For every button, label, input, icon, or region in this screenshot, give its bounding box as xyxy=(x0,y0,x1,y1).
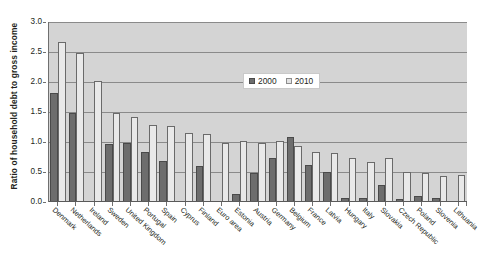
x-label-cell: France xyxy=(303,203,321,269)
bar-2010 xyxy=(403,172,411,202)
x-label-cell: Denmark xyxy=(48,203,66,269)
bar-group xyxy=(431,22,449,202)
bar-2010 xyxy=(331,153,339,202)
bar-group xyxy=(122,22,140,202)
x-label-cell: Spain xyxy=(157,203,175,269)
bar-2010 xyxy=(440,176,448,202)
plot-area xyxy=(48,22,467,202)
y-tick-mark xyxy=(43,82,46,83)
bar-2010 xyxy=(422,173,430,202)
bar-2000 xyxy=(305,165,313,202)
bar-2010 xyxy=(131,117,139,202)
bar-2010 xyxy=(367,162,375,202)
bar-2010 xyxy=(349,158,357,202)
x-axis-labels: DenmarkNetherlandsIrelandSwedenUnited Ki… xyxy=(48,203,467,269)
bar-group xyxy=(358,22,376,202)
x-label-cell: Lithuania xyxy=(449,203,467,269)
bar-2000 xyxy=(323,172,331,202)
bar-2010 xyxy=(167,126,175,202)
bar-group xyxy=(85,22,103,202)
y-tick-label: 0.0 xyxy=(2,198,42,206)
bar-2000 xyxy=(287,137,295,202)
bar-2010 xyxy=(458,175,466,202)
bar-2010 xyxy=(222,143,230,202)
bar-2010 xyxy=(294,146,302,202)
legend-swatch-2000 xyxy=(249,78,255,84)
bar-group xyxy=(140,22,158,202)
x-label-cell: Hungary xyxy=(340,203,358,269)
bar-2010 xyxy=(185,133,193,202)
bar-group xyxy=(376,22,394,202)
bar-group xyxy=(231,22,249,202)
bar-2010 xyxy=(258,143,266,202)
bar-2010 xyxy=(203,134,211,202)
y-tick-mark xyxy=(43,52,46,53)
bar-2010 xyxy=(76,53,84,202)
y-tick-mark xyxy=(43,172,46,173)
x-label-cell: Poland xyxy=(412,203,430,269)
x-label-cell: Latvia xyxy=(321,203,339,269)
bar-group xyxy=(394,22,412,202)
bar-group xyxy=(249,22,267,202)
x-label-cell: Euro area xyxy=(212,203,230,269)
legend-item-2000: 2000 xyxy=(249,76,277,86)
y-tick-label: 1.0 xyxy=(2,138,42,146)
x-label-cell: Slovenia xyxy=(431,203,449,269)
bar-2000 xyxy=(123,143,131,202)
bar-group xyxy=(285,22,303,202)
x-label-cell: Ireland xyxy=(84,203,102,269)
bar-group xyxy=(104,22,122,202)
legend-label-2000: 2000 xyxy=(258,76,277,86)
legend-swatch-2010 xyxy=(286,78,292,84)
y-tick-label: 1.5 xyxy=(2,108,42,116)
x-label-cell: Cyprus xyxy=(176,203,194,269)
bar-group xyxy=(213,22,231,202)
bar-2000 xyxy=(269,158,277,202)
bar-group xyxy=(49,22,67,202)
x-label-cell: Netherlands xyxy=(66,203,84,269)
x-axis-label: Italy xyxy=(361,206,376,220)
y-axis-tick-labels: 0.00.51.01.52.02.53.0 xyxy=(0,22,46,202)
y-tick-label: 2.0 xyxy=(2,78,42,86)
x-label-cell: Finland xyxy=(194,203,212,269)
bar-2000 xyxy=(141,152,149,202)
x-label-cell: Portugal xyxy=(139,203,157,269)
bar-group xyxy=(194,22,212,202)
bar-2010 xyxy=(276,141,284,202)
x-label-cell: United Kingdom xyxy=(121,203,139,269)
legend-item-2010: 2010 xyxy=(286,76,314,86)
bar-2000 xyxy=(196,166,204,202)
y-tick-label: 2.5 xyxy=(2,48,42,56)
bar-group xyxy=(340,22,358,202)
x-label-cell: Italy xyxy=(358,203,376,269)
x-label-cell: Slovakia xyxy=(376,203,394,269)
chart-legend: 2000 2010 xyxy=(243,73,320,89)
y-tick-mark xyxy=(43,22,46,23)
bar-group xyxy=(267,22,285,202)
bar-2010 xyxy=(94,81,102,202)
x-label-cell: Belgium xyxy=(285,203,303,269)
bar-group xyxy=(449,22,467,202)
bar-2000 xyxy=(105,144,113,202)
legend-label-2010: 2010 xyxy=(295,76,314,86)
bar-group xyxy=(67,22,85,202)
bar-2000 xyxy=(69,113,77,202)
bar-2010 xyxy=(58,42,66,202)
bar-2010 xyxy=(149,125,157,202)
bar-2010 xyxy=(312,152,320,202)
x-axis-label: Lithuania xyxy=(452,206,479,231)
x-label-cell: Germany xyxy=(267,203,285,269)
bar-2000 xyxy=(50,93,58,202)
y-tick-label: 3.0 xyxy=(2,18,42,26)
bar-2010 xyxy=(113,113,121,202)
bar-group xyxy=(176,22,194,202)
bar-group xyxy=(322,22,340,202)
y-tick-mark xyxy=(43,142,46,143)
bar-2010 xyxy=(240,141,248,202)
bar-group xyxy=(303,22,321,202)
bar-2000 xyxy=(250,173,258,202)
bar-groups xyxy=(49,22,467,202)
x-label-cell: Sweden xyxy=(103,203,121,269)
bar-2010 xyxy=(385,158,393,202)
